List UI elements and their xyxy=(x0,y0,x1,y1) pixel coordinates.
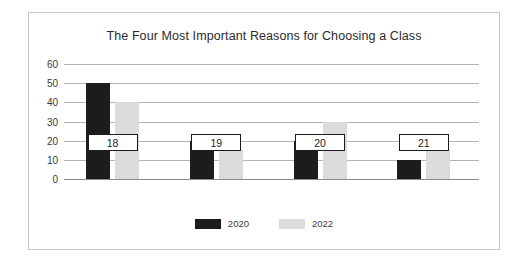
bar-group-21 xyxy=(397,64,450,179)
legend-label-2020: 2020 xyxy=(228,218,249,229)
y-tick-label-60: 60 xyxy=(47,59,58,70)
bar-group-18 xyxy=(86,64,139,179)
y-tick-label-40: 40 xyxy=(47,97,58,108)
chart-legend: 20202022 xyxy=(29,218,499,229)
bar-2022-19[interactable] xyxy=(219,150,243,179)
chart-title: The Four Most Important Reasons for Choo… xyxy=(29,29,499,43)
chart-frame: The Four Most Important Reasons for Choo… xyxy=(28,12,500,250)
y-tick-label-50: 50 xyxy=(47,78,58,89)
legend-item-2022[interactable]: 2022 xyxy=(279,218,333,229)
plot-area: 6050403020100 xyxy=(64,64,479,179)
x-category-box-21: 21 xyxy=(399,134,449,151)
y-tick-label-0: 0 xyxy=(52,174,58,185)
legend-label-2022: 2022 xyxy=(312,218,333,229)
x-category-box-20: 20 xyxy=(295,134,345,151)
legend-item-2020[interactable]: 2020 xyxy=(195,218,249,229)
x-category-box-19: 19 xyxy=(191,134,241,151)
bar-group-19 xyxy=(190,64,243,179)
bar-group-20 xyxy=(294,64,347,179)
y-tick-label-10: 10 xyxy=(47,154,58,165)
y-tick-label-20: 20 xyxy=(47,135,58,146)
legend-swatch-2022 xyxy=(279,219,305,229)
y-tick-label-30: 30 xyxy=(47,116,58,127)
gridline-0 xyxy=(64,179,479,180)
bar-2020-21[interactable] xyxy=(397,160,421,179)
bar-2022-21[interactable] xyxy=(426,150,450,179)
legend-swatch-2020 xyxy=(195,219,221,229)
bar-2020-18[interactable] xyxy=(86,83,110,179)
x-category-box-18: 18 xyxy=(88,134,138,151)
